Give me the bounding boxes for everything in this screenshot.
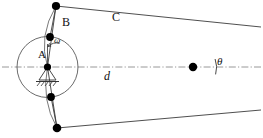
- joint-node-top-inner: [46, 33, 54, 41]
- theta-angle-label: θ: [217, 56, 222, 67]
- distance-d-label: d: [104, 70, 110, 82]
- link-c-label: C: [112, 11, 120, 23]
- mechanism-diagram: B C A ω d θ: [0, 0, 263, 138]
- ground-hatching: [37, 82, 57, 87]
- link-b-label: B: [62, 16, 70, 28]
- joint-node-bottom-outer: [53, 124, 62, 133]
- joint-node-apex: [189, 63, 197, 71]
- joint-node-top-outer: [52, 2, 60, 10]
- link-b-lower-secondary: [51, 97, 57, 128]
- link-c-upper-ray: [56, 6, 261, 27]
- diagram-canvas: [0, 0, 263, 138]
- pivot-a-label: A: [38, 49, 46, 60]
- joint-node-bottom-inner: [47, 93, 55, 101]
- lower-ray: [57, 110, 261, 128]
- joint-node-pivot-a: [44, 63, 51, 70]
- angular-velocity-label: ω: [54, 36, 60, 45]
